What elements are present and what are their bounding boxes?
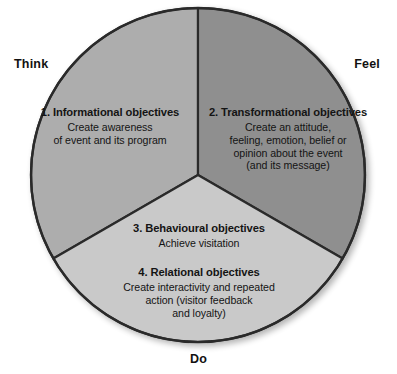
segment-line: of event and its program bbox=[24, 134, 196, 147]
segment-title-relational: 4. Relational objectives bbox=[80, 266, 318, 280]
segment-body-behavioural: Achieve visitation bbox=[96, 237, 302, 250]
segment-body-relational: Create interactivity and repeated action… bbox=[80, 281, 318, 320]
segment-line: and loyalty) bbox=[80, 307, 318, 320]
segment-text-behavioural: 3. Behavioural objectives Achieve visita… bbox=[96, 222, 302, 250]
axis-label-do: Do bbox=[0, 352, 397, 366]
segment-line: action (visitor feedback bbox=[80, 294, 318, 307]
segment-line: feeling, emotion, belief or bbox=[200, 134, 376, 147]
axis-label-think: Think bbox=[14, 57, 48, 71]
axis-label-feel: Feel bbox=[354, 57, 380, 71]
segment-title-behavioural: 3. Behavioural objectives bbox=[96, 222, 302, 236]
segment-body-informational: Create awareness of event and its progra… bbox=[24, 121, 196, 147]
segment-text-informational: 1. Informational objectives Create aware… bbox=[24, 106, 196, 147]
segment-text-transformational: 2. Transformational objectives Create an… bbox=[200, 106, 376, 172]
segment-body-transformational: Create an attitude, feeling, emotion, be… bbox=[200, 121, 376, 173]
objectives-pie-diagram: Think Feel Do 1. Informational objective… bbox=[0, 0, 397, 374]
segment-line: (and its message) bbox=[200, 159, 376, 172]
segment-line: Create awareness bbox=[24, 121, 196, 134]
segment-line: Achieve visitation bbox=[96, 237, 302, 250]
segment-title-informational: 1. Informational objectives bbox=[24, 106, 196, 120]
segment-line: Create interactivity and repeated bbox=[80, 281, 318, 294]
segment-title-transformational: 2. Transformational objectives bbox=[200, 106, 376, 120]
segment-line: Create an attitude, bbox=[200, 121, 376, 134]
segment-line: opinion about the event bbox=[200, 147, 376, 160]
segment-text-relational: 4. Relational objectives Create interact… bbox=[80, 266, 318, 319]
